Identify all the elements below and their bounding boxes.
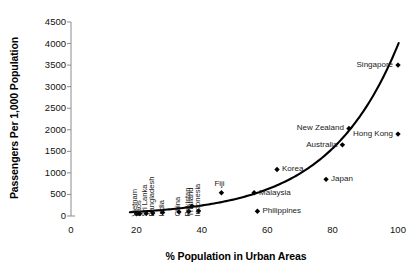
data-point-label: Singapore — [357, 61, 393, 69]
data-point-label: Bangladesh — [148, 176, 156, 216]
data-point-marker[interactable] — [323, 177, 328, 182]
data-point-label: New Zealand — [297, 124, 344, 132]
data-point-marker[interactable] — [346, 126, 351, 131]
data-point-label: India — [158, 200, 166, 216]
data-point-label: Hong Kong — [353, 130, 393, 138]
data-point-label: Malaysia — [259, 189, 291, 197]
data-point-label: Korea — [282, 165, 303, 173]
data-point-marker[interactable] — [395, 62, 400, 67]
data-point-label: Japan — [331, 175, 353, 183]
data-point-marker[interactable] — [219, 190, 224, 195]
data-point-label: Philippines — [262, 207, 301, 215]
data-point-label: Indonesia — [194, 184, 202, 217]
data-point-marker[interactable] — [395, 131, 400, 136]
scatter-chart: Passengers Per 1,000 Population 05001000… — [0, 0, 414, 272]
data-point-label: Fiji — [214, 180, 224, 188]
data-point-label: China — [174, 197, 182, 217]
data-point-marker[interactable] — [255, 209, 260, 214]
plot-area — [0, 0, 414, 272]
data-point-label: Australia — [306, 141, 337, 149]
data-point-marker[interactable] — [274, 167, 279, 172]
data-point-marker[interactable] — [340, 142, 345, 147]
